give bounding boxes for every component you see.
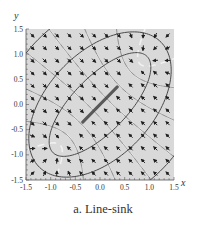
x-tick-label: 0.0 (95, 183, 105, 192)
x-tick-label: -0.5 (69, 183, 81, 192)
y-tick-label: -0.5 (11, 125, 23, 134)
x-tick-label: 0.5 (120, 183, 130, 192)
y-axis-label: y (13, 10, 19, 21)
x-axis-label: x (180, 177, 186, 188)
x-tick-label: -1.0 (45, 183, 57, 192)
figure-caption: a. Line-sink (0, 202, 206, 217)
x-tick-label: 1.0 (145, 183, 155, 192)
y-tick-label: -1.5 (11, 176, 23, 185)
y-tick-label: 1.0 (14, 50, 24, 59)
vector-field-plot: -1.5-1.0-0.50.00.51.01.5-1.5-1.0-0.50.00… (0, 0, 206, 200)
y-tick-label: 0.5 (14, 75, 24, 84)
y-tick-label: 0.0 (14, 100, 24, 109)
y-tick-label: 1.5 (14, 25, 24, 34)
y-tick-label: -1.0 (11, 150, 23, 159)
line-sink-figure: -1.5-1.0-0.50.00.51.01.5-1.5-1.0-0.50.00… (0, 0, 206, 229)
x-tick-label: 1.5 (169, 183, 179, 192)
